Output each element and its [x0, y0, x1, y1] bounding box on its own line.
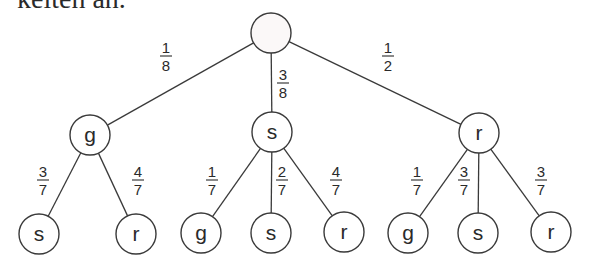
root-node	[251, 13, 291, 53]
tree-edge	[48, 153, 81, 216]
tree-edge	[491, 149, 539, 216]
fraction-numerator: 2	[278, 163, 286, 180]
tree-edge	[107, 43, 253, 125]
node-label: r	[476, 121, 483, 144]
tree-edge	[478, 153, 479, 213]
node-label: s	[473, 221, 484, 244]
leaf-node-s-r: r	[324, 212, 364, 252]
fraction-denominator: 7	[39, 181, 47, 198]
node-level1-r: r	[459, 113, 499, 153]
fraction-denominator: 7	[413, 181, 421, 198]
fraction-denominator: 7	[208, 181, 216, 198]
tree-edge	[289, 42, 461, 125]
fraction-denominator: 7	[332, 181, 340, 198]
fraction-denominator: 2	[384, 57, 392, 74]
node-label: g	[402, 221, 414, 244]
fraction-denominator: 8	[162, 57, 170, 74]
probability-label-s-s: 27	[276, 163, 288, 198]
fraction-numerator: 1	[208, 163, 216, 180]
probability-label-r-g: 17	[411, 163, 423, 198]
probability-label-r-s: 37	[458, 163, 470, 198]
node-circle	[251, 13, 291, 53]
probability-label-r-r: 37	[535, 163, 547, 198]
tree-edge	[271, 53, 272, 112]
fraction-numerator: 3	[460, 163, 468, 180]
probability-label-level1-s: 38	[277, 66, 289, 101]
node-label: r	[548, 220, 555, 243]
leaf-node-r-r: r	[531, 212, 571, 252]
node-label: r	[133, 222, 140, 245]
node-label: s	[34, 222, 45, 245]
node-label: s	[267, 120, 278, 143]
fraction-denominator: 7	[134, 181, 142, 198]
tree-edge	[213, 148, 261, 216]
probability-label-level1-g: 18	[160, 39, 172, 74]
node-label: r	[341, 220, 348, 243]
fraction-numerator: 3	[39, 163, 47, 180]
node-level1-g: g	[70, 115, 110, 155]
leaf-node-g-s: s	[19, 214, 59, 254]
fraction-numerator: 4	[134, 163, 142, 180]
leaf-node-r-s: s	[458, 213, 498, 253]
leaf-node-g-r: r	[116, 214, 156, 254]
fraction-numerator: 1	[384, 39, 392, 56]
fraction-denominator: 8	[279, 84, 287, 101]
node-label: g	[195, 221, 207, 244]
fraction-numerator: 1	[162, 39, 170, 56]
probability-tree-diagram: 1838123747172747173737 gsrsrgsrgsr	[0, 0, 594, 271]
fraction-numerator: 4	[332, 163, 340, 180]
fraction-numerator: 3	[537, 163, 545, 180]
fraction-denominator: 7	[278, 181, 286, 198]
probability-label-g-r: 47	[132, 163, 144, 198]
tree-edge	[284, 148, 333, 216]
probability-label-level1-r: 12	[382, 39, 394, 74]
probability-label-s-r: 47	[330, 163, 342, 198]
fraction-numerator: 1	[413, 163, 421, 180]
leaf-node-s-g: g	[181, 213, 221, 253]
leaf-node-s-s: s	[251, 213, 291, 253]
fraction-denominator: 7	[537, 181, 545, 198]
fraction-numerator: 3	[279, 66, 287, 83]
tree-nodes: gsrsrgsrgsr	[19, 13, 571, 254]
tree-edge	[271, 152, 272, 213]
node-level1-s: s	[252, 112, 292, 152]
fraction-denominator: 7	[460, 181, 468, 198]
leaf-node-r-g: g	[388, 213, 428, 253]
node-label: s	[266, 221, 277, 244]
probability-label-g-s: 37	[37, 163, 49, 198]
tree-edge	[98, 153, 127, 216]
node-label: g	[84, 123, 96, 146]
probability-label-s-g: 17	[206, 163, 218, 198]
